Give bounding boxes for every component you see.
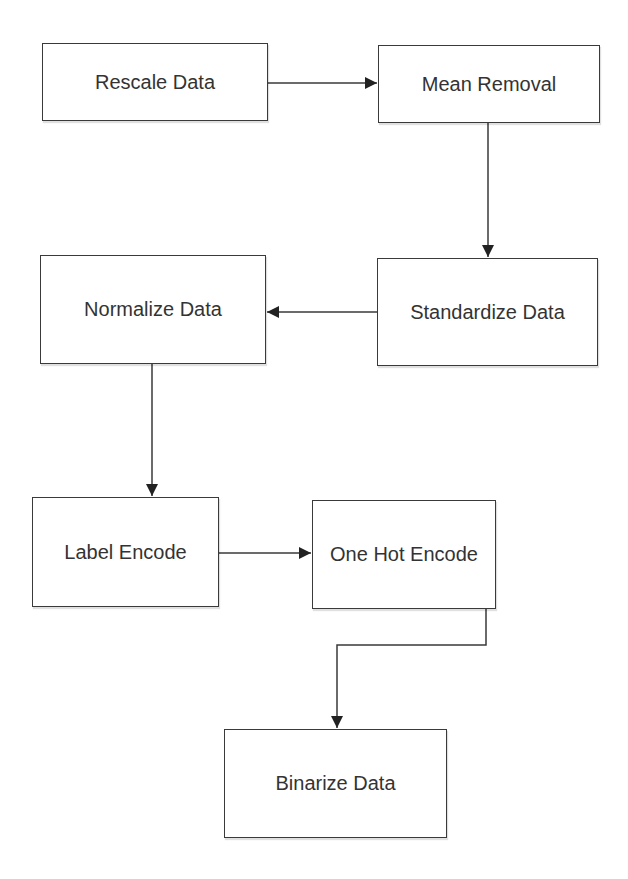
edge-one-hot-to-binarize bbox=[337, 609, 486, 728]
node-standardize-data: Standardize Data bbox=[377, 258, 598, 366]
node-label-encode: Label Encode bbox=[32, 497, 219, 607]
node-label: Rescale Data bbox=[95, 71, 215, 94]
node-label: Binarize Data bbox=[275, 772, 395, 795]
node-label: Standardize Data bbox=[410, 301, 565, 324]
node-label: Normalize Data bbox=[84, 298, 222, 321]
node-mean-removal: Mean Removal bbox=[378, 45, 600, 123]
node-label: Label Encode bbox=[64, 541, 186, 564]
node-one-hot-encode: One Hot Encode bbox=[312, 500, 496, 609]
node-rescale-data: Rescale Data bbox=[42, 43, 268, 121]
node-binarize-data: Binarize Data bbox=[224, 729, 447, 838]
node-normalize-data: Normalize Data bbox=[40, 255, 266, 364]
node-label: One Hot Encode bbox=[330, 543, 478, 566]
node-label: Mean Removal bbox=[422, 73, 557, 96]
